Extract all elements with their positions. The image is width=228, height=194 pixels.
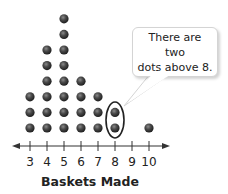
data-dot (25, 108, 34, 117)
tick-label-5: 5 (60, 155, 68, 169)
tick-labels-group: 345678910 (26, 155, 156, 169)
data-dot (42, 108, 51, 117)
data-dot (42, 77, 51, 86)
data-dot (59, 61, 68, 70)
data-dot (59, 108, 68, 117)
data-dot (59, 14, 68, 23)
data-dot (59, 45, 68, 54)
data-dot (25, 92, 34, 101)
callout-box: There are two dots above 8. (132, 27, 218, 77)
data-dot (93, 92, 102, 101)
tick-label-8: 8 (111, 155, 119, 169)
data-dot (59, 30, 68, 39)
data-dot (76, 108, 85, 117)
data-dot (25, 123, 34, 132)
callout-tail (124, 74, 170, 106)
x-axis-title: Baskets Made (41, 174, 139, 189)
data-dot (59, 92, 68, 101)
data-dot (76, 123, 85, 132)
tick-label-7: 7 (94, 155, 102, 169)
left-arrow-icon (12, 143, 20, 149)
highlight-ellipse (106, 102, 124, 138)
tick-label-4: 4 (43, 155, 51, 169)
data-dot (59, 123, 68, 132)
data-dot (110, 123, 119, 132)
tick-label-3: 3 (26, 155, 34, 169)
data-dot (76, 92, 85, 101)
right-arrow-icon (162, 143, 170, 149)
data-dot (93, 123, 102, 132)
data-dot (93, 108, 102, 117)
data-dot (42, 92, 51, 101)
tick-label-6: 6 (77, 155, 85, 169)
data-dot (42, 61, 51, 70)
data-dot (110, 108, 119, 117)
callout-line-2: dots above 8. (137, 60, 213, 75)
data-dot (59, 77, 68, 86)
data-dot (144, 123, 153, 132)
tick-label-9: 9 (128, 155, 136, 169)
data-dot (42, 123, 51, 132)
data-dot (42, 45, 51, 54)
callout-line-1: There are two (137, 30, 213, 60)
tick-label-10: 10 (141, 155, 156, 169)
data-dot (76, 77, 85, 86)
